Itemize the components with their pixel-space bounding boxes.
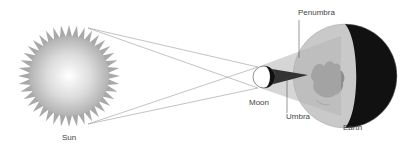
earth-label: Earth bbox=[343, 124, 362, 132]
umbra-label: Umbra bbox=[286, 113, 310, 121]
sun-icon bbox=[18, 25, 120, 127]
sun-label: Sun bbox=[62, 134, 76, 142]
solar-eclipse-diagram: Sun Moon Umbra Earth Penumbra bbox=[0, 0, 414, 150]
moon-icon bbox=[253, 66, 275, 88]
penumbra-label: Penumbra bbox=[298, 9, 335, 17]
moon-label: Moon bbox=[249, 99, 269, 107]
